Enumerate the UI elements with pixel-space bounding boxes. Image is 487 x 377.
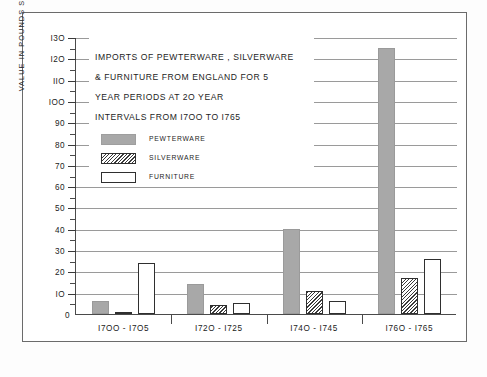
y-tick-major [68,102,76,103]
legend-label: SILVERWARE [149,154,200,161]
y-tick-label: 60 [55,183,65,192]
y-tick-label: 90 [55,119,65,128]
legend-swatch-silverware [101,153,136,164]
x-tick-label: I7OO - I7O5 [98,324,149,333]
chart-title-line: IMPORTS OF PEWTERWARE , SILVERWARE [95,52,294,62]
y-tick-label: 40 [55,225,65,234]
title-legend-block: IMPORTS OF PEWTERWARE , SILVERWARE& FURN… [89,38,314,177]
y-tick-major [68,81,76,82]
bar-furniture-0 [138,263,155,314]
bar-pewterware-0 [92,301,109,314]
bar-furniture-3 [424,259,441,314]
bar-silverware-1 [210,305,227,314]
x-axis-separator [362,314,363,324]
y-tick-major [68,145,76,146]
y-tick-major [68,208,76,209]
chart-figure: VALUE IN POUNDS STERLING X IOOO IO203040… [0,0,487,377]
figure-border: VALUE IN POUNDS STERLING X IOOO IO203040… [22,12,467,342]
y-tick-label: IIO [53,76,65,85]
y-tick-label: 80 [55,140,65,149]
y-tick-label: 50 [55,204,65,213]
y-tick-label: I2O [51,55,65,64]
y-axis-zero-label: 0 [65,311,70,320]
y-tick-major [68,59,76,60]
y-tick-major [68,123,76,124]
y-tick-major [68,166,76,167]
bar-silverware-0 [115,312,132,314]
x-tick-label: I74O - I745 [290,324,338,333]
chart-title-line: & FURNITURE FROM ENGLAND FOR 5 [95,72,269,82]
y-tick-label: I3O [51,34,65,43]
legend-label: PEWTERWARE [149,135,206,142]
x-axis-separator [267,314,268,324]
bar-furniture-2 [329,301,346,314]
bar-furniture-1 [233,303,250,314]
chart-title-line: YEAR PERIODS AT 2O YEAR [95,92,224,102]
bar-pewterware-1 [187,284,204,314]
bar-pewterware-3 [378,48,395,314]
legend-swatch-pewterware [101,134,136,145]
y-tick-major [68,294,76,295]
y-tick-label: IO [56,289,65,298]
y-axis-title: VALUE IN POUNDS STERLING X IOOO [17,0,26,113]
y-tick-major [68,251,76,252]
y-tick-label: IOO [49,97,65,106]
y-tick-major [68,272,76,273]
legend-swatch-furniture [101,172,136,183]
x-axis-separator [171,314,172,324]
x-tick-label: I72O - I725 [195,324,243,333]
y-tick-label: 30 [55,247,65,256]
x-tick-label: I76O - I765 [386,324,434,333]
y-tick-major [68,38,76,39]
bar-pewterware-2 [283,229,300,314]
bar-silverware-3 [401,278,418,314]
bar-silverware-2 [306,291,323,314]
y-tick-label: 20 [55,268,65,277]
y-tick-major [68,187,76,188]
chart-title-line: INTERVALS FROM I7OO TO I765 [95,112,241,122]
y-tick-major [68,230,76,231]
legend-label: FURNITURE [149,173,195,180]
y-tick-label: 70 [55,161,65,170]
